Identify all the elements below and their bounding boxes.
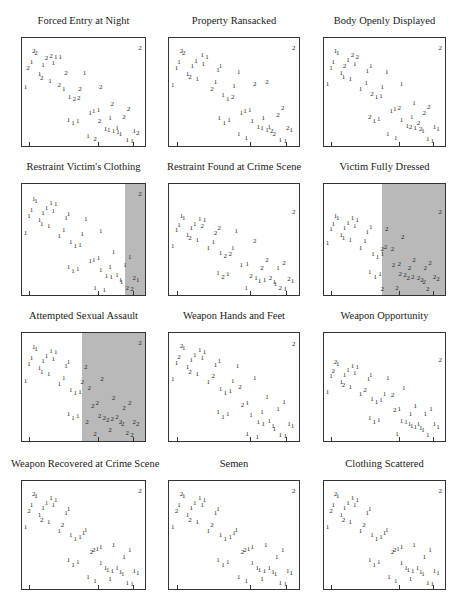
point-marker-1: 1 <box>260 575 264 582</box>
point-marker-1: 1 <box>257 418 261 425</box>
point-marker-2: 2 <box>391 391 395 398</box>
point-marker-2: 2 <box>342 517 346 524</box>
panel-title: Restraint Victim's Clothing <box>11 161 156 172</box>
point-marker-1: 1 <box>207 527 211 534</box>
point-marker-1: 1 <box>379 396 383 403</box>
point-marker-1: 1 <box>336 493 340 500</box>
point-marker-1: 1 <box>290 126 294 133</box>
point-marker-2: 2 <box>412 256 416 263</box>
point-marker-2: 2 <box>272 130 276 137</box>
point-marker-1: 1 <box>253 374 257 381</box>
point-marker-1: 1 <box>375 535 379 542</box>
point-marker-2: 2 <box>438 208 442 215</box>
point-marker-1: 1 <box>400 543 404 550</box>
point-marker-1: 1 <box>216 408 220 415</box>
point-marker-1: 1 <box>109 274 113 281</box>
point-marker-1: 1 <box>353 370 357 377</box>
point-marker-1: 1 <box>359 85 363 92</box>
plot-frame: 2121111111211111121111121112111111111111… <box>323 332 446 442</box>
point-marker-1: 1 <box>402 384 406 391</box>
point-marker-2: 2 <box>34 50 38 57</box>
point-marker-1: 1 <box>67 210 71 217</box>
point-marker-1: 1 <box>97 254 101 261</box>
point-marker-1: 1 <box>62 374 66 381</box>
point-marker-2: 2 <box>436 276 440 283</box>
point-marker-1: 1 <box>193 352 197 359</box>
point-marker-1: 1 <box>171 242 175 249</box>
point-marker-1: 1 <box>400 559 404 566</box>
point-marker-1: 1 <box>380 83 384 90</box>
plot-frame: 2212221111121211212212222111111212111111… <box>21 37 146 147</box>
point-marker-1: 1 <box>260 124 264 131</box>
point-marker-1: 1 <box>386 374 390 381</box>
point-marker-2: 2 <box>265 256 269 263</box>
point-marker-1: 1 <box>368 269 372 276</box>
scatter-panel: Restraint Victim's Clothing1111111111111… <box>11 161 156 298</box>
panel-title: Property Ransacked <box>158 15 310 26</box>
point-marker-2: 2 <box>282 259 286 266</box>
scatter-panel: Property Ransacked2211111111211111211221… <box>158 15 310 149</box>
point-marker-1: 1 <box>368 414 372 421</box>
plot-frame: 2211111111211111211221122211111111111122… <box>168 37 300 147</box>
axis-tick <box>399 437 400 442</box>
point-marker-1: 1 <box>84 215 88 222</box>
point-marker-1: 1 <box>349 518 353 525</box>
point-marker-1: 1 <box>24 523 28 530</box>
point-marker-1: 1 <box>130 580 134 587</box>
axis-tick <box>433 437 434 442</box>
point-marker-2: 2 <box>98 117 102 124</box>
point-marker-1: 1 <box>349 75 353 82</box>
point-marker-1: 1 <box>237 573 241 580</box>
axis-tick <box>98 142 99 147</box>
plot-frame: 1111111121212211111212222111212121112112… <box>168 183 300 296</box>
point-marker-1: 1 <box>52 502 56 509</box>
point-marker-2: 2 <box>281 104 285 111</box>
point-marker-1: 1 <box>189 505 193 512</box>
point-marker-1: 1 <box>372 418 376 425</box>
axis-tick <box>250 142 251 147</box>
point-marker-1: 1 <box>409 575 413 582</box>
point-marker-1: 1 <box>128 253 132 260</box>
point-marker-1: 1 <box>216 556 220 563</box>
point-marker-1: 1 <box>368 556 372 563</box>
plot-frame: 2112111111211111211111221111111111111111… <box>21 480 146 590</box>
point-marker-2: 2 <box>363 386 367 393</box>
point-marker-2: 2 <box>111 415 115 422</box>
point-marker-1: 1 <box>276 405 280 412</box>
point-marker-1: 1 <box>74 242 78 249</box>
panel-title: Clothing Scattered <box>313 458 456 469</box>
point-marker-1: 1 <box>40 221 44 228</box>
point-marker-1: 1 <box>369 63 373 70</box>
plot-frame: 1111111111111111111111111111111111111112… <box>21 183 146 296</box>
point-marker-1: 1 <box>370 531 374 538</box>
point-marker-1: 1 <box>279 579 283 586</box>
point-marker-1: 1 <box>395 430 399 437</box>
scatter-panel: Body Openly Displayed1111122211111111111… <box>313 15 456 149</box>
point-marker-2: 2 <box>380 286 384 293</box>
point-marker-1: 1 <box>76 412 80 419</box>
point-marker-1: 1 <box>370 395 374 402</box>
point-marker-1: 1 <box>329 226 333 233</box>
point-marker-1: 1 <box>258 566 262 573</box>
point-marker-1: 1 <box>122 553 126 560</box>
point-marker-1: 1 <box>136 277 140 284</box>
axis-tick <box>177 291 178 296</box>
scatter-panel: Weapon Opportunity2121111111211111121111… <box>313 310 456 444</box>
point-marker-2: 2 <box>397 104 401 111</box>
point-marker-1: 1 <box>377 115 381 122</box>
point-marker-1: 1 <box>78 241 82 248</box>
point-marker-2: 2 <box>81 378 85 385</box>
point-marker-1: 1 <box>49 199 53 206</box>
scatter-panel: Clothing Scattered2112111111211111211111… <box>313 458 456 592</box>
point-marker-2: 2 <box>98 412 102 419</box>
scatter-panel: Weapon Hands and Feet2121111111211111121… <box>158 310 310 444</box>
axis-tick <box>331 585 332 590</box>
axis-tick <box>399 585 400 590</box>
point-marker-1: 1 <box>99 267 103 274</box>
point-marker-1: 1 <box>421 127 425 134</box>
point-marker-1: 1 <box>200 52 204 59</box>
axis-tick <box>29 585 30 590</box>
point-marker-1: 1 <box>193 500 197 507</box>
point-marker-1: 1 <box>369 224 373 231</box>
point-marker-2: 2 <box>279 285 283 292</box>
